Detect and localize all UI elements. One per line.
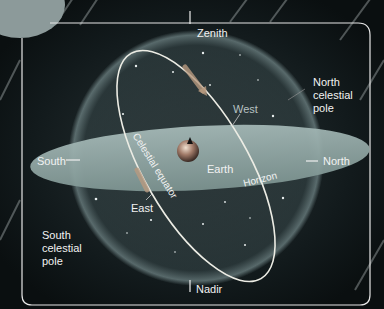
- celestial-sphere-diagram: Zenith Nadir South North West East Earth…: [0, 0, 384, 309]
- north-label: North: [323, 155, 350, 167]
- south-celestial-pole-label: South celestial pole: [42, 229, 82, 268]
- nadir-label: Nadir: [196, 283, 222, 295]
- north-celestial-pole-label: North celestial pole: [313, 76, 353, 115]
- south-label: South: [37, 155, 66, 167]
- west-label: West: [233, 103, 258, 115]
- east-label: East: [131, 202, 153, 214]
- earth-label: Earth: [207, 163, 233, 175]
- zenith-label: Zenith: [197, 27, 228, 39]
